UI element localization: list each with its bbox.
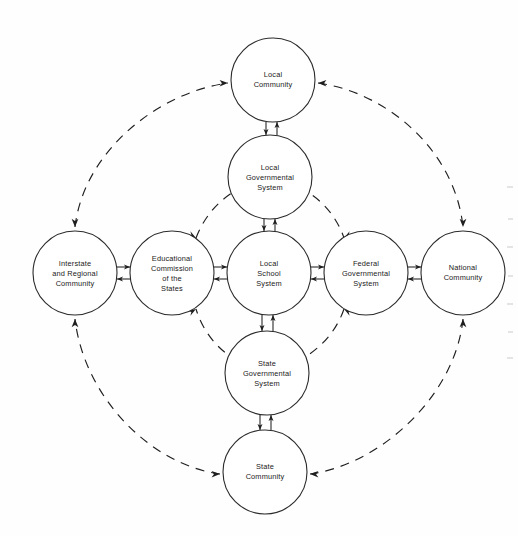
node-state-governmental-system[interactable]: State Governmental System: [225, 331, 309, 415]
arrowhead-into-interstate-bottom: [72, 319, 79, 327]
arrowhead-into-state-community-left: [212, 471, 220, 477]
link-federal-national: [408, 265, 421, 282]
node-label-line3: System: [256, 279, 282, 288]
node-label-line2: Community: [254, 80, 293, 89]
node-label-line3: Community: [56, 279, 95, 288]
node-label-line1: Local: [261, 163, 280, 172]
node-federal-governmental-system[interactable]: Federal Governmental System: [324, 231, 408, 315]
node-label-line1: State: [256, 462, 274, 471]
node-label-line1: Interstate: [59, 259, 91, 268]
node-local-governmental-system[interactable]: Local Governmental System: [228, 135, 312, 219]
arrowhead-into-local-community-left: [220, 80, 228, 86]
link-ecs-local-school: [214, 265, 227, 282]
node-label-line1: National: [449, 263, 478, 272]
dashed-arc-national-state-community: [310, 319, 463, 474]
node-label-line2: Governmental: [246, 173, 294, 182]
node-label-line2: Commission: [151, 264, 193, 273]
dashed-arc-local-community-national: [318, 83, 463, 227]
node-label-line3: of the: [162, 274, 181, 283]
arrowhead-into-state-community-right: [310, 471, 318, 477]
systems-relationship-diagram: Local Community Local Governmental Syste…: [0, 0, 518, 536]
diagram-canvas: Local Community Local Governmental Syste…: [0, 0, 518, 536]
node-state-community[interactable]: State Community: [223, 430, 307, 514]
arrowhead-into-interstate-top: [72, 219, 79, 227]
link-local-school-state-gov: [260, 315, 276, 331]
node-label-line1: Educational: [152, 254, 192, 263]
node-local-community[interactable]: Local Community: [231, 38, 315, 122]
node-national-community[interactable]: National Community: [421, 231, 505, 315]
node-label-line3: System: [353, 279, 379, 288]
node-label-line2: Governmental: [342, 269, 390, 278]
arrowhead-into-local-community-right: [318, 80, 326, 86]
node-circle[interactable]: [130, 231, 214, 315]
link-local-school-federal: [311, 265, 324, 282]
link-state-gov-state-community: [258, 415, 274, 430]
dashed-arc-state-community-interstate: [75, 319, 220, 474]
node-local-school-system[interactable]: Local School System: [227, 231, 311, 315]
link-interstate-ecs: [117, 265, 130, 282]
node-educational-commission-of-the-states[interactable]: Educational Commission of the States: [130, 231, 214, 315]
node-label-line2: Community: [246, 472, 285, 481]
node-label-line2: Community: [444, 273, 483, 282]
node-label-line2: School: [257, 269, 281, 278]
node-label-line4: States: [161, 284, 183, 293]
node-label-line3: System: [254, 379, 280, 388]
node-label-line1: State: [258, 359, 276, 368]
node-label-line3: System: [257, 183, 283, 192]
link-local-community-local-gov: [264, 122, 280, 135]
arrowhead-into-national-bottom: [460, 319, 467, 327]
node-label-line1: Local: [264, 70, 283, 79]
node-label-line2: and Regional: [52, 269, 98, 278]
node-interstate-and-regional-community[interactable]: Interstate and Regional Community: [33, 231, 117, 315]
node-label-line2: Governmental: [243, 369, 291, 378]
node-label-line1: Local: [260, 259, 279, 268]
arrowhead-into-national-top: [460, 219, 467, 227]
link-local-gov-local-school: [262, 219, 278, 231]
node-label-line1: Federal: [353, 259, 379, 268]
scan-artifact-group: [507, 186, 513, 359]
dashed-arc-interstate-local-community: [75, 83, 228, 227]
